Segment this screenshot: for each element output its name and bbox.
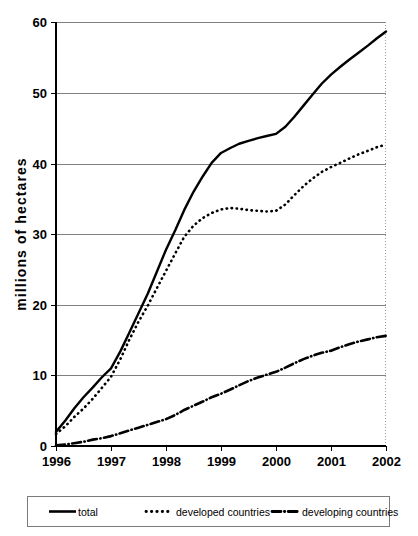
y-tick-label-30: 30: [33, 227, 47, 242]
x-tick-label-1998: 1998: [152, 454, 181, 469]
line-chart: 0102030405060 19961997199819992000200120…: [0, 0, 418, 536]
x-tick-label-1997: 1997: [97, 454, 126, 469]
legend-label-developed-countries: developed countries: [176, 506, 270, 518]
x-tick-label-2002: 2002: [372, 454, 401, 469]
y-tick-label-40: 40: [33, 157, 47, 172]
y-tick-label-50: 50: [33, 86, 47, 101]
x-tick-label-1996: 1996: [42, 454, 71, 469]
chart-legend: total developed countries developing cou…: [28, 497, 399, 527]
y-axis-title: millions of hectares: [13, 157, 29, 310]
y-tick-label-20: 20: [33, 298, 47, 313]
x-tick-label-2000: 2000: [262, 454, 291, 469]
y-tick-label-0: 0: [40, 439, 47, 454]
chart-figure: 0102030405060 19961997199819992000200120…: [0, 0, 418, 536]
y-tick-label-10: 10: [33, 368, 47, 383]
y-tick-label-60: 60: [33, 15, 47, 30]
x-tick-label-1999: 1999: [207, 454, 236, 469]
legend-label-developing-countries: developing countries: [302, 506, 398, 518]
x-tick-label-2001: 2001: [317, 454, 346, 469]
legend-label-total: total: [78, 506, 98, 518]
